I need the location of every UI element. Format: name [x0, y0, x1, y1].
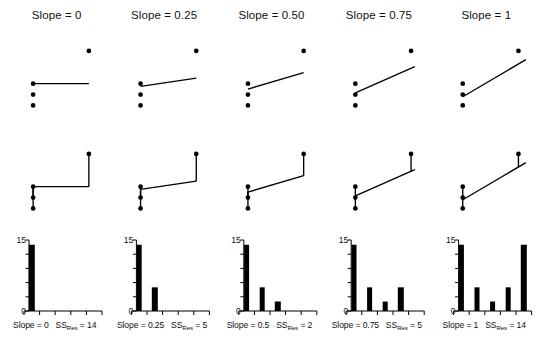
data-point: [246, 206, 251, 211]
data-point: [301, 152, 306, 157]
regression-line: [463, 60, 526, 97]
data-point: [460, 206, 465, 211]
histogram-bar: [490, 302, 495, 311]
data-point: [516, 49, 521, 54]
data-point: [194, 49, 199, 54]
histogram-bar: [383, 302, 388, 311]
data-point: [460, 195, 465, 200]
regression-line: [248, 176, 304, 192]
data-point: [138, 195, 143, 200]
regression-line: [141, 181, 197, 189]
data-point: [31, 81, 36, 86]
histogram-bar: [398, 287, 404, 311]
histogram-ytick-bottom-4: 0: [438, 306, 456, 316]
data-point: [460, 92, 465, 97]
data-point: [353, 195, 358, 200]
data-point: [516, 152, 521, 157]
histogram-bar: [506, 287, 511, 311]
histogram-ytick-bottom-2: 0: [223, 306, 241, 316]
histogram-bar: [352, 245, 357, 311]
data-point: [409, 49, 414, 54]
histogram-bottom-label-3: Slope = 0.75 SSRes = 5: [325, 320, 428, 330]
data-point: [460, 184, 465, 189]
panel-title-2: Slope = 0.50: [221, 9, 322, 21]
histogram-ytick-top-0: 15: [8, 235, 26, 245]
histogram-bottom-label-2: Slope = 0.5 SSRes = 2: [218, 320, 321, 330]
data-point: [246, 103, 251, 108]
data-point: [31, 103, 36, 108]
data-point: [246, 92, 251, 97]
panel-title-3: Slope = 0.75: [328, 9, 429, 21]
panel-title-0: Slope = 0: [6, 9, 107, 21]
data-point: [87, 49, 92, 54]
data-point: [246, 184, 251, 189]
data-point: [194, 152, 199, 157]
histogram-bar: [521, 245, 527, 311]
data-point: [353, 184, 358, 189]
histogram-ytick-bottom-1: 0: [115, 306, 133, 316]
data-point: [460, 103, 465, 108]
regression-line: [141, 78, 197, 86]
histogram-bottom-label-0: Slope = 0 SSRes = 14: [3, 320, 106, 330]
histogram-bar: [29, 245, 35, 311]
panel-title-4: Slope = 1: [436, 9, 537, 21]
regression-line: [355, 67, 414, 93]
histogram-ytick-top-4: 15: [438, 235, 456, 245]
histogram-ytick-top-1: 15: [115, 235, 133, 245]
histogram-bottom-label-4: Slope = 1 SSRes = 14: [433, 320, 536, 330]
data-point: [246, 195, 251, 200]
regression-least-squares-figure: Slope = 0Slope = 0.25Slope = 0.50Slope =…: [0, 0, 537, 349]
histogram-bar: [152, 287, 158, 311]
histogram-ytick-top-3: 15: [330, 235, 348, 245]
histogram-bar: [275, 302, 281, 311]
histogram-bottom-label-1: Slope = 0.25 SSRes = 5: [110, 320, 213, 330]
data-point: [409, 152, 414, 157]
data-point: [246, 81, 251, 86]
data-point: [353, 206, 358, 211]
data-point: [138, 81, 143, 86]
panel-title-1: Slope = 0.25: [113, 9, 214, 21]
data-point: [138, 184, 143, 189]
histogram-bar: [137, 245, 142, 311]
histogram-ytick-bottom-0: 0: [8, 306, 26, 316]
data-point: [138, 92, 143, 97]
histogram-bar: [260, 287, 265, 311]
data-point: [353, 92, 358, 97]
histogram-bar: [244, 245, 249, 311]
data-point: [301, 49, 306, 54]
data-point: [31, 206, 36, 211]
data-point: [138, 206, 143, 211]
histogram-bar: [459, 245, 464, 311]
regression-line: [463, 163, 526, 200]
data-point: [87, 152, 92, 157]
data-point: [31, 195, 36, 200]
regression-line: [248, 73, 304, 89]
data-point: [353, 103, 358, 108]
data-point: [31, 184, 36, 189]
histogram-bar: [475, 287, 480, 311]
regression-line: [355, 170, 414, 196]
histogram-bar: [367, 287, 372, 311]
data-point: [138, 103, 143, 108]
figure-canvas: [0, 0, 537, 349]
histogram-ytick-top-2: 15: [223, 235, 241, 245]
data-point: [460, 81, 465, 86]
data-point: [353, 81, 358, 86]
histogram-ytick-bottom-3: 0: [330, 306, 348, 316]
data-point: [31, 92, 36, 97]
